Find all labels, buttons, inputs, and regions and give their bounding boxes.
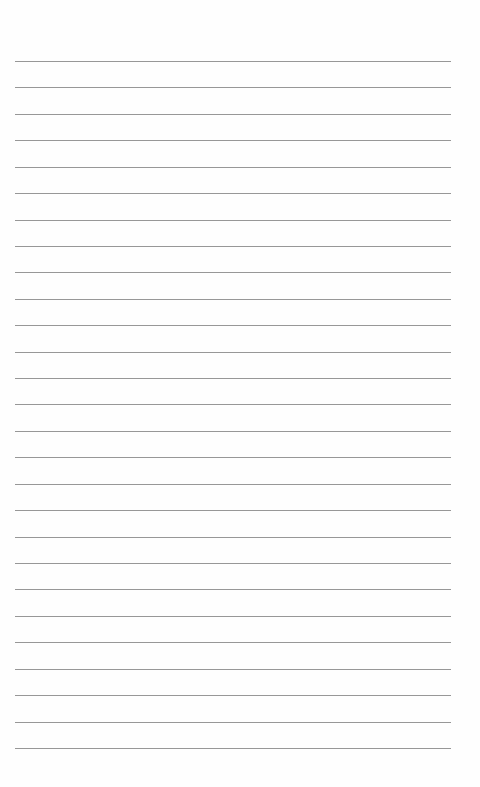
ruled-line [15, 87, 451, 88]
ruled-line [15, 378, 451, 379]
ruled-line [15, 695, 451, 696]
ruled-line [15, 748, 451, 749]
ruled-line [15, 193, 451, 194]
ruled-line [15, 404, 451, 405]
ruled-line [15, 61, 451, 62]
ruled-line [15, 616, 451, 617]
ruled-line [15, 325, 451, 326]
ruled-line [15, 246, 451, 247]
ruled-line [15, 563, 451, 564]
ruled-line [15, 537, 451, 538]
ruled-line [15, 484, 451, 485]
ruled-line [15, 510, 451, 511]
ruled-line [15, 114, 451, 115]
ruled-line [15, 457, 451, 458]
ruled-line [15, 431, 451, 432]
ruled-line [15, 167, 451, 168]
lined-paper-page [0, 0, 480, 787]
ruled-line [15, 589, 451, 590]
ruled-line [15, 220, 451, 221]
ruled-line [15, 299, 451, 300]
ruled-line [15, 722, 451, 723]
ruled-line [15, 642, 451, 643]
ruled-line [15, 272, 451, 273]
ruled-line [15, 352, 451, 353]
ruled-line [15, 669, 451, 670]
ruled-line [15, 140, 451, 141]
